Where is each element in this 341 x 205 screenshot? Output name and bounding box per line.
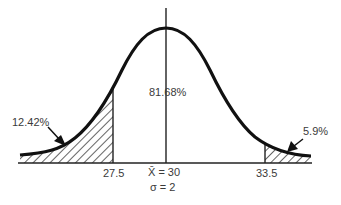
sigma-annotation: σ = 2 — [150, 181, 175, 193]
right-arrow — [294, 139, 303, 146]
mean-annotation: X̄ = 30 — [148, 166, 180, 178]
left-tail-percent: 12.42% — [12, 116, 49, 128]
left-arrowhead — [54, 135, 66, 146]
tick-label-right: 33.5 — [256, 167, 277, 179]
middle-percent: 81.68% — [149, 86, 186, 98]
right-arrowhead — [287, 141, 298, 152]
tick-label-left: 27.5 — [103, 167, 124, 179]
right-tail-percent: 5.9% — [303, 125, 328, 137]
